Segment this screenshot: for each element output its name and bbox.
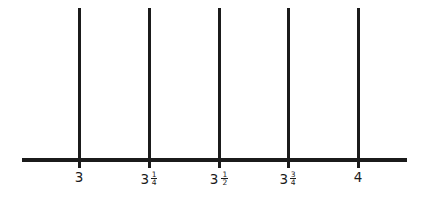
tick-label-1: 3: [39, 171, 119, 185]
fraction-numerator: 3: [290, 171, 297, 179]
tick-mark-3: [218, 8, 221, 168]
tick-label-whole: 4: [354, 171, 363, 185]
tick-mark-5: [357, 8, 360, 168]
fraction-denominator: 4: [290, 178, 297, 187]
tick-label-3: 3 1 2: [179, 171, 259, 188]
fraction-numerator: 1: [221, 171, 228, 179]
tick-label-fraction: 3 4: [290, 171, 297, 188]
tick-label-5: 4: [318, 171, 398, 185]
tick-label-fraction: 1 2: [221, 171, 228, 188]
fraction-denominator: 2: [221, 178, 228, 187]
tick-label-whole: 3: [141, 173, 150, 187]
tick-mark-1: [78, 8, 81, 168]
tick-label-whole: 3: [280, 173, 289, 187]
tick-mark-2: [148, 8, 151, 168]
tick-label-whole: 3: [210, 173, 219, 187]
number-line-figure: 3 3 1 4 3 1 2 3 3: [0, 0, 426, 204]
tick-label-whole: 3: [75, 171, 84, 185]
tick-label-4: 3 3 4: [248, 171, 328, 188]
tick-label-2: 3 1 4: [109, 171, 189, 188]
tick-label-fraction: 1 4: [151, 171, 158, 188]
tick-mark-4: [287, 8, 290, 168]
fraction-denominator: 4: [151, 178, 158, 187]
fraction-numerator: 1: [151, 171, 158, 179]
